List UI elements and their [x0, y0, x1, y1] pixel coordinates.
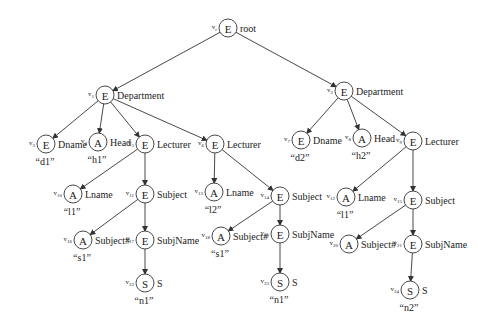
- edge-subj15-to-subjno20: [356, 205, 405, 239]
- node-id-subscript: 19: [264, 233, 270, 238]
- node-id-subscript: 6: [202, 143, 205, 148]
- node-id: v9: [396, 136, 403, 145]
- node-type: E: [142, 139, 149, 151]
- node-label: Subject: [425, 195, 455, 206]
- node-id: v13: [195, 187, 204, 196]
- node-type: A: [94, 137, 102, 149]
- node-id-subscript: 3: [33, 143, 36, 148]
- node-label: Subject: [292, 191, 322, 202]
- tree-node-dept1: Ev1Department: [88, 86, 164, 104]
- edge-lect6-to-lname13: [214, 153, 215, 183]
- edge-dept1-to-head1: [99, 104, 103, 133]
- node-id-subscript: 14: [264, 195, 270, 200]
- node-id: v18: [202, 231, 211, 240]
- node-value: “s1”: [73, 252, 91, 263]
- tree-node-s22: Sv22S“n1”: [126, 274, 163, 306]
- xml-tree-diagram: EvrrootEv1DepartmentEv3Dname“d1”Av4Head“…: [0, 0, 478, 327]
- tree-node-lect6: Ev6Lecturer: [198, 135, 262, 153]
- node-label: S: [292, 277, 298, 288]
- edge-root-to-dept2: [236, 32, 336, 86]
- node-label: Lecturer: [425, 136, 460, 147]
- edge-subj14-to-subjno18: [228, 201, 272, 231]
- edge-dept1-to-lect6: [113, 99, 207, 141]
- node-id-subscript: 22: [129, 282, 135, 287]
- node-id: v3: [29, 139, 36, 148]
- node-value: “h1”: [88, 154, 107, 165]
- node-type: E: [142, 235, 149, 247]
- node-id: v15: [394, 195, 403, 204]
- node-label: Subject: [157, 189, 187, 200]
- node-label: Department: [117, 90, 164, 101]
- node-id: v1: [88, 90, 95, 99]
- node-label: Lecturer: [157, 139, 192, 150]
- node-type: E: [341, 86, 348, 98]
- node-id-subscript: 18: [205, 235, 211, 240]
- node-value: “d2”: [291, 152, 310, 163]
- edge-dept2-to-head8: [347, 99, 359, 129]
- node-label: root: [240, 23, 256, 34]
- node-id-subscript: 4: [85, 141, 88, 146]
- node-type: E: [410, 195, 417, 207]
- node-type: A: [345, 239, 353, 251]
- node-type: S: [407, 285, 413, 297]
- tree-node-subjno20: Av20Subject#: [330, 235, 397, 253]
- node-id-subscript: 16: [67, 239, 73, 244]
- node-id: v14: [261, 191, 270, 200]
- node-label: Lecturer: [227, 139, 262, 150]
- edge-dept2-to-dname7: [307, 98, 338, 133]
- tree-node-subj14: Ev14Subject: [261, 187, 323, 205]
- node-id-subscript: 8: [349, 137, 352, 142]
- edge-subj11-to-subjno16: [90, 199, 138, 234]
- edge-lect6-to-subj14: [222, 150, 273, 191]
- node-value: “s1”: [211, 248, 229, 259]
- node-id: v17: [126, 235, 135, 244]
- node-id: v16: [64, 235, 73, 244]
- node-type: E: [225, 23, 232, 35]
- node-id-subscript: 13: [198, 191, 204, 196]
- node-label: Dname: [313, 135, 342, 146]
- node-label: Head: [374, 133, 395, 144]
- node-id-subscript: 17: [129, 239, 135, 244]
- node-type: E: [410, 136, 417, 148]
- node-type: E: [298, 135, 305, 147]
- tree-node-head8: Av8Head“h2”: [345, 129, 395, 161]
- node-id: v10: [54, 189, 63, 198]
- node-value: “n2”: [400, 302, 419, 313]
- node-id-subscript: 7: [288, 139, 291, 144]
- node-id-subscript: 10: [57, 193, 63, 198]
- node-id: v24: [391, 285, 400, 294]
- tree-node-subjname21: Ev21SubjName: [394, 235, 468, 253]
- node-type: E: [277, 229, 284, 241]
- node-id-subscript: 11: [129, 193, 134, 198]
- node-label: Lname: [85, 189, 113, 200]
- tree-node-root: Evrroot: [212, 19, 257, 37]
- node-id-subscript: 2: [331, 90, 334, 95]
- node-type: E: [102, 90, 109, 102]
- node-id-subscript: 20: [333, 243, 339, 248]
- node-label: Subject#: [361, 239, 396, 250]
- node-id: v8: [345, 133, 352, 142]
- node-value: “l1”: [64, 206, 81, 217]
- node-value: “l1”: [337, 209, 354, 220]
- tree-node-head1: Av4Head“h1”: [81, 133, 131, 165]
- edge-dept1-to-lect5: [111, 102, 140, 137]
- node-value: “n1”: [270, 294, 289, 305]
- node-id: v7: [284, 135, 291, 144]
- node-type: E: [212, 139, 219, 151]
- node-id-subscript: 9: [400, 140, 403, 145]
- tree-node-lname13: Av13Lname“l2”: [195, 183, 255, 215]
- nodes-layer: EvrrootEv1DepartmentEv3Dname“d1”Av4Head“…: [29, 19, 468, 313]
- node-value: “h2”: [352, 150, 371, 161]
- node-id: v20: [330, 239, 339, 248]
- node-id: v21: [394, 239, 403, 248]
- edge-dept1-to-dname1: [53, 101, 98, 138]
- node-id: v5: [128, 139, 135, 148]
- node-type: A: [210, 187, 218, 199]
- node-label: S: [157, 278, 163, 289]
- node-label: SubjName: [292, 229, 335, 240]
- node-type: A: [217, 231, 225, 243]
- node-id-subscript: 23: [264, 281, 270, 286]
- node-type: E: [410, 239, 417, 251]
- node-id-subscript: 21: [397, 243, 403, 248]
- node-id: vr: [212, 23, 218, 32]
